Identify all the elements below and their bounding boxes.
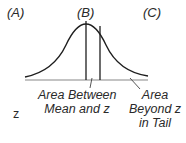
caption-beyond-line-1: Area (125, 88, 185, 102)
row-label-z: z (13, 107, 19, 121)
caption-area-beyond: Area Beyond z in Tail (125, 88, 185, 130)
caption-beyond-line-3: in Tail (125, 116, 185, 130)
column-label-a: (A) (7, 6, 24, 20)
caption-between-line-1: Area Between (38, 88, 116, 102)
caption-beyond-line-2: Beyond z (125, 102, 185, 116)
column-label-c: (C) (143, 6, 161, 20)
caption-between-line-2: Mean and z (38, 102, 116, 116)
caption-area-between: Area Between Mean and z (38, 88, 116, 116)
column-label-b: (B) (77, 6, 94, 20)
